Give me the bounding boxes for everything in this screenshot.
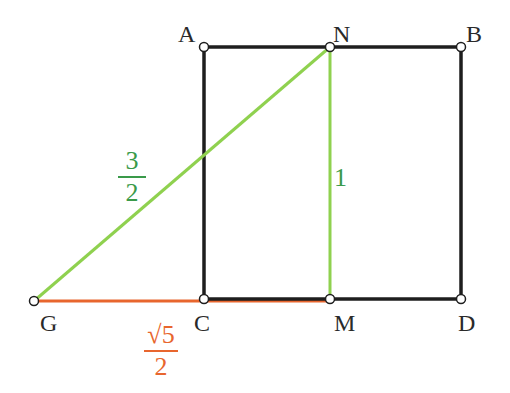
label-a: A: [178, 22, 195, 46]
measure-gc-denominator: 2: [155, 354, 168, 380]
label-d: D: [458, 311, 475, 335]
label-c: C: [194, 311, 210, 335]
segment-gn: [34, 47, 330, 301]
point-a: [200, 43, 209, 52]
point-c: [200, 295, 209, 304]
measure-gc-numerator: √5: [147, 322, 174, 348]
measure-gn-numerator: 3: [126, 148, 139, 174]
point-m: [326, 295, 335, 304]
point-g: [30, 297, 39, 306]
measure-gc: √5 2: [141, 322, 181, 380]
measure-gn: 3 2: [117, 148, 147, 206]
label-m: M: [334, 311, 355, 335]
label-n: N: [333, 22, 350, 46]
measure-gn-denominator: 2: [126, 180, 139, 206]
point-d: [457, 295, 466, 304]
label-b: B: [466, 22, 482, 46]
measure-nm: 1: [334, 165, 347, 191]
label-g: G: [40, 311, 57, 335]
point-b: [457, 43, 466, 52]
diagram-canvas: [0, 0, 510, 393]
